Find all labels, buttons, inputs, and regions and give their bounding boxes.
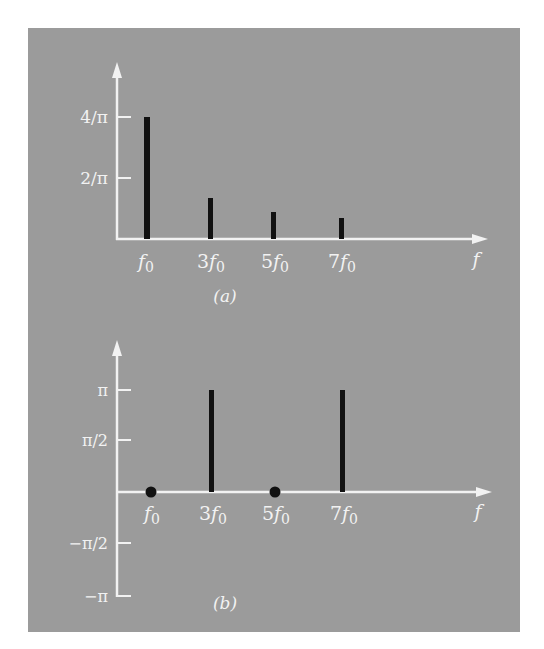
y-axis-arrow-icon <box>112 62 122 78</box>
figure-svg: 4/π 2/π f0 3f0 5f0 7f0 f (a) π π/2 −π/2 … <box>0 0 544 649</box>
bar-f0 <box>144 117 150 239</box>
bar-3f0 <box>208 198 213 239</box>
xtick-label-3f0: 3f0 <box>199 502 227 527</box>
ytick-label: −π <box>84 587 108 606</box>
xtick-label-3f0: 3f0 <box>197 250 225 275</box>
chart-b: π π/2 −π/2 −π f0 3f0 5f0 7f0 f (b) <box>69 340 493 613</box>
ytick-label: −π/2 <box>69 534 109 553</box>
caption-a: (a) <box>213 286 236 306</box>
ytick-label: 2/π <box>80 168 108 188</box>
bar-7f0 <box>339 218 344 239</box>
chart-a: 4/π 2/π f0 3f0 5f0 7f0 f (a) <box>80 62 488 306</box>
y-axis-arrow-icon <box>112 340 122 356</box>
xtick-label-7f0: 7f0 <box>330 502 358 527</box>
dot-f0 <box>146 487 157 498</box>
dot-5f0 <box>270 487 281 498</box>
x-axis-label-a: f <box>470 248 482 270</box>
ytick-label: 4/π <box>80 107 108 127</box>
x-axis-arrow-icon <box>476 487 492 497</box>
bar-3f0 <box>209 390 214 492</box>
caption-b: (b) <box>213 593 237 613</box>
bar-7f0 <box>340 390 345 492</box>
xtick-label-7f0: 7f0 <box>328 250 356 275</box>
xtick-label-5f0: 5f0 <box>261 250 289 275</box>
x-axis-label-b: f <box>472 500 484 522</box>
x-axis-arrow-icon <box>472 234 488 244</box>
ytick-label: π <box>97 381 108 400</box>
xtick-label-5f0: 5f0 <box>262 502 290 527</box>
xtick-label-f0: f0 <box>136 250 154 275</box>
xtick-label-f0: f0 <box>142 502 160 527</box>
ytick-label: π/2 <box>82 431 108 450</box>
bar-5f0 <box>271 212 276 239</box>
